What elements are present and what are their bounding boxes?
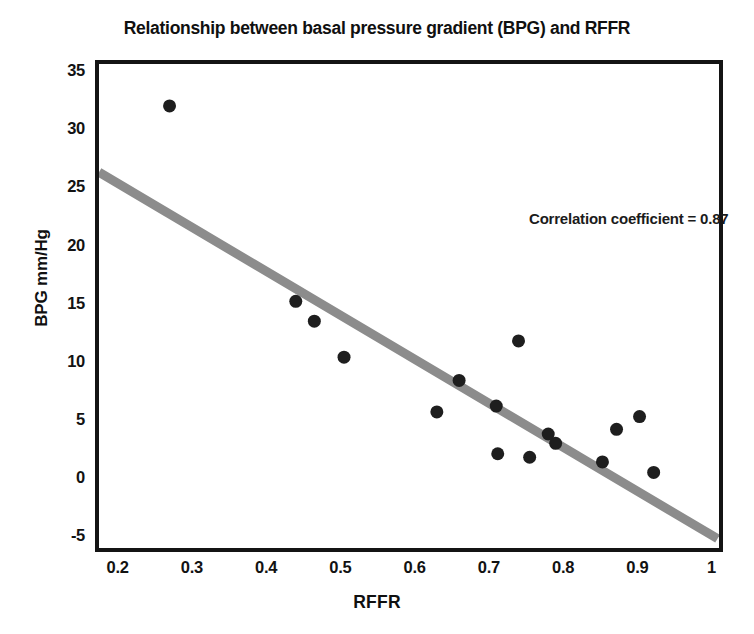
- chart-title: Relationship between basal pressure grad…: [0, 18, 754, 39]
- y-axis-tick-label: -5: [39, 526, 85, 545]
- x-axis-tick-label: 0.2: [88, 558, 148, 577]
- data-point-marker: [338, 351, 351, 364]
- x-axis-tick-label: 0.6: [385, 558, 445, 577]
- data-point-marker: [633, 410, 646, 423]
- x-axis-tick-label: 0.8: [533, 558, 593, 577]
- x-axis-tick-label: 0.9: [607, 558, 667, 577]
- data-point-marker: [430, 405, 443, 418]
- x-axis-tick-label: 0.3: [162, 558, 222, 577]
- data-point-marker: [163, 99, 176, 112]
- scatter-chart-figure: Relationship between basal pressure grad…: [0, 0, 754, 634]
- y-axis-tick-label: 0: [39, 468, 85, 487]
- data-point-marker: [289, 295, 302, 308]
- x-axis-tick-label: 0.4: [236, 558, 296, 577]
- y-axis-tick-label: 5: [39, 410, 85, 429]
- data-point-marker: [490, 400, 503, 413]
- data-point-marker: [610, 423, 623, 436]
- y-axis-tick-label: 30: [39, 119, 85, 138]
- x-axis-tick-label: 0.5: [310, 558, 370, 577]
- correlation-annotation: Correlation coefficient = 0.87: [529, 210, 728, 227]
- data-point-marker: [523, 451, 536, 464]
- data-point-marker: [549, 437, 562, 450]
- y-axis-tick-label: 35: [39, 61, 85, 80]
- plot-svg: [99, 64, 719, 548]
- x-axis-tick-label: 0.7: [459, 558, 519, 577]
- data-point-marker: [512, 334, 525, 347]
- regression-trendline: [99, 172, 718, 538]
- plot-area: Correlation coefficient = 0.87: [95, 60, 723, 552]
- data-point-marker: [647, 466, 660, 479]
- x-axis-label: RFFR: [0, 592, 754, 613]
- data-point-marker: [596, 455, 609, 468]
- data-point-marker: [308, 315, 321, 328]
- x-axis-tick-label: 1: [682, 558, 742, 577]
- y-axis-label: BPG mm/Hg: [32, 178, 52, 378]
- data-point-marker: [491, 447, 504, 460]
- data-point-marker: [453, 374, 466, 387]
